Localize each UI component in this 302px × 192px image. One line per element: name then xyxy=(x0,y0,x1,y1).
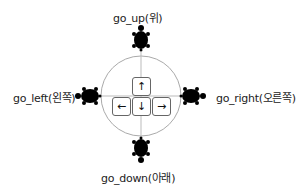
key-right: → xyxy=(152,97,171,116)
arrow-up-icon: ↑ xyxy=(137,81,146,92)
turtle-icon-up xyxy=(132,25,150,52)
arrow-down-icon: ↓ xyxy=(137,101,146,112)
key-down: ↓ xyxy=(132,97,151,116)
label-go-up: go_up(위) xyxy=(113,9,162,25)
label-go-down: go_down(아래) xyxy=(101,169,175,185)
turtle-icon-down xyxy=(132,137,150,164)
arrow-left-icon: ← xyxy=(117,101,126,112)
arrow-right-icon: → xyxy=(157,101,166,112)
turtle-icon-right xyxy=(180,87,207,105)
label-go-left: go_left(왼쪽) xyxy=(13,89,75,105)
key-left: ← xyxy=(112,97,131,116)
key-up: ↑ xyxy=(132,77,151,96)
label-go-right: go_right(오른쪽) xyxy=(216,89,296,105)
turtle-icon-left xyxy=(75,87,102,105)
